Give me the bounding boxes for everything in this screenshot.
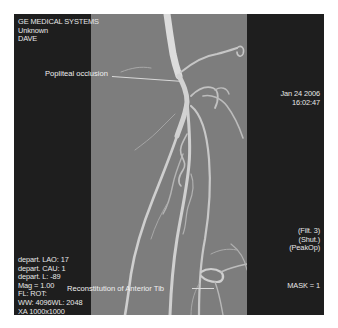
peakop-text: (PeakOp) <box>289 244 320 253</box>
mask-info: MASK = 1 <box>287 282 320 291</box>
right-info-panel <box>247 14 324 315</box>
angiogram-image[interactable] <box>91 14 247 315</box>
top-left-info: GE MEDICAL SYSTEMS Unknown DAVE <box>18 18 99 44</box>
mask-text: MASK = 1 <box>287 282 320 291</box>
vessel-tree-graphic <box>91 14 247 315</box>
angiography-viewer: GE MEDICAL SYSTEMS Unknown DAVE Jan 24 2… <box>14 14 324 315</box>
reconstitution-label: Reconstitution of Anterior Tib <box>67 284 164 293</box>
popliteal-occlusion-label: Popliteal occlusion <box>45 69 108 78</box>
patient-name-text: DAVE <box>18 35 99 44</box>
top-right-info: Jan 24 2006 16:02:47 <box>280 90 320 107</box>
study-time-text: 16:02:47 <box>280 99 320 108</box>
reconstitution-leader-line <box>192 288 214 289</box>
matrix-size-text: XA 1000x1000 <box>18 308 82 315</box>
bottom-right-filters: (Filt. 3) (Shut.) (PeakOp) <box>289 227 320 253</box>
